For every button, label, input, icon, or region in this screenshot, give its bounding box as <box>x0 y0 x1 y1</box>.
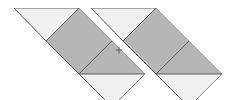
piece-right-bottom-triangle <box>156 74 222 100</box>
figure-canvas <box>0 0 236 100</box>
piece-left-bottom-triangle <box>79 74 145 100</box>
dissection-figure <box>0 0 236 100</box>
